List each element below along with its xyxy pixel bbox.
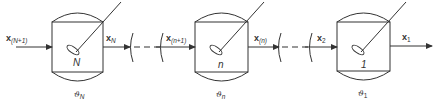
stirrer-shaft	[76, 2, 121, 52]
break-bracket	[279, 33, 282, 62]
stream-label-x-N: xN	[106, 33, 116, 44]
stream-label-x-n-plus-1: x(n+1)	[166, 33, 186, 45]
tank-label: n	[218, 59, 224, 70]
temperature-label: ϑn	[216, 90, 226, 100]
tank-N: N ϑN	[52, 2, 121, 100]
tank-top-head	[337, 13, 390, 22]
stirrer-shaft	[361, 2, 406, 52]
tank-1: 1 ϑ1	[337, 2, 406, 99]
tank-bottom-head	[52, 72, 103, 81]
tank-label: N	[73, 57, 81, 68]
reactor-cascade-diagram: N ϑN n ϑn 1 ϑ1 x(N+1) xN	[0, 0, 437, 105]
tank-top-head	[195, 13, 248, 22]
tank-top-head	[52, 13, 103, 22]
break-bracket	[131, 33, 134, 62]
temperature-label: ϑN	[74, 90, 85, 100]
tank-bottom-head	[195, 72, 248, 81]
tank-n: n ϑn	[195, 2, 264, 100]
stream-label-x-1: x1	[402, 32, 411, 43]
tank-bottom-head	[337, 71, 390, 80]
stream-label-x-N-plus-1: x(N+1)	[6, 33, 27, 45]
stream-label-x-2: x2	[317, 33, 326, 44]
temperature-label: ϑ1	[358, 89, 368, 99]
stream-label-x-n: x(n)	[254, 33, 267, 45]
tank-label: 1	[361, 59, 367, 70]
stirrer-shaft	[219, 2, 264, 52]
